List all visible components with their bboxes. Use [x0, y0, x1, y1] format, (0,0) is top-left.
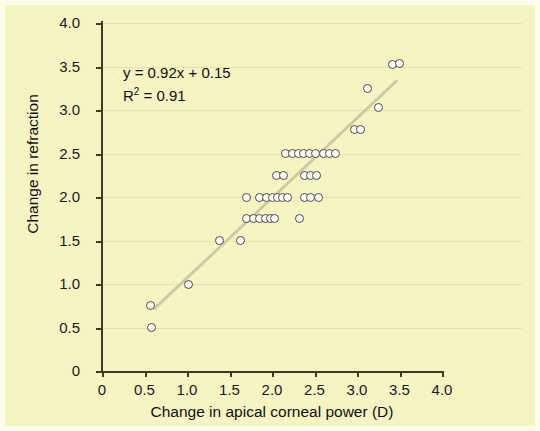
y-tick-label: 2.0 — [46, 188, 80, 205]
x-tick-mark — [102, 371, 104, 377]
x-tick-label: 0 — [82, 381, 122, 398]
y-tick-mark — [96, 328, 102, 330]
scatter-point — [236, 236, 245, 245]
y-axis-title: Change in refraction — [24, 64, 42, 264]
scatter-point — [314, 193, 323, 202]
r-squared-value: R2 = 0.91 — [123, 84, 231, 107]
y-tick-mark — [96, 284, 102, 286]
y-tick-label: 3.5 — [46, 58, 80, 75]
x-tick-mark — [357, 371, 359, 377]
y-tick-label: 0 — [46, 362, 80, 379]
y-tick-mark — [96, 154, 102, 156]
regression-equation: y = 0.92x + 0.15 — [123, 61, 231, 84]
scatter-point — [312, 171, 321, 180]
x-tick-mark — [187, 371, 189, 377]
y-tick-mark — [96, 23, 102, 25]
y-tick-label: 3.0 — [46, 101, 80, 118]
x-tick-mark — [400, 371, 402, 377]
y-tick-mark — [96, 110, 102, 112]
y-tick-label: 2.5 — [46, 145, 80, 162]
x-tick-label: 1.0 — [167, 381, 207, 398]
x-tick-mark — [230, 371, 232, 377]
x-tick-label: 4.0 — [422, 381, 462, 398]
x-tick-label: 2.5 — [295, 381, 335, 398]
x-tick-label: 2.0 — [252, 381, 292, 398]
scatter-point — [363, 84, 372, 93]
y-tick-label: 4.0 — [46, 14, 80, 31]
scatter-point — [215, 236, 224, 245]
x-tick-label: 1.5 — [210, 381, 250, 398]
x-tick-mark — [315, 371, 317, 377]
r-squared-number: 0.91 — [157, 87, 186, 104]
scatter-point — [374, 103, 383, 112]
scatter-point — [295, 214, 304, 223]
x-tick-mark — [442, 371, 444, 377]
x-tick-mark — [145, 371, 147, 377]
x-axis-title: Change in apical corneal power (D) — [102, 403, 442, 421]
chart-figure: 00.51.01.52.02.53.03.54.0 00.51.01.52.02… — [0, 0, 540, 431]
y-tick-mark — [96, 241, 102, 243]
regression-annotation: y = 0.92x + 0.15 R2 = 0.91 — [123, 61, 231, 108]
y-tick-mark — [96, 67, 102, 69]
scatter-point — [283, 193, 292, 202]
scatter-point — [356, 125, 365, 134]
x-tick-label: 3.0 — [337, 381, 377, 398]
y-tick-label: 0.5 — [46, 319, 80, 336]
y-tick-label: 1.5 — [46, 232, 80, 249]
x-tick-label: 0.5 — [125, 381, 165, 398]
scatter-point — [184, 280, 193, 289]
scatter-point — [147, 323, 156, 332]
y-tick-label: 1.0 — [46, 275, 80, 292]
x-tick-label: 3.5 — [380, 381, 420, 398]
y-tick-mark — [96, 197, 102, 199]
scatter-point — [242, 193, 251, 202]
x-tick-mark — [272, 371, 274, 377]
